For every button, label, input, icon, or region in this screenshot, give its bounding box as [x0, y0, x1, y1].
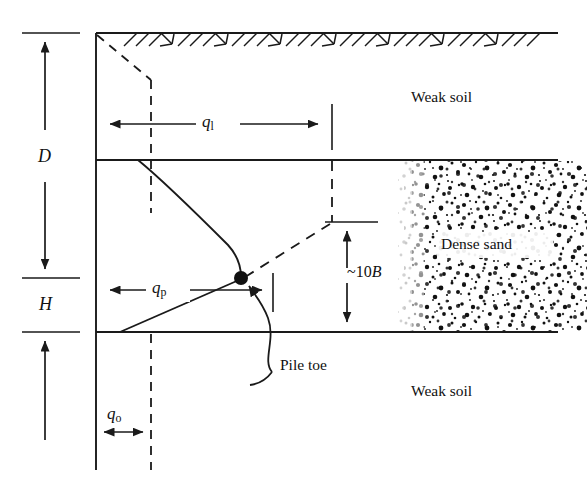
dense-sand-label: Dense sand: [441, 236, 512, 252]
depth-D-label: D: [38, 147, 51, 165]
ground-hatch-icon: [124, 33, 540, 46]
q-point-dimension: [110, 273, 273, 312]
pile-toe-marker: [234, 271, 248, 285]
q-mobilised-curve: [120, 160, 241, 332]
weak-soil-upper-label: Weak soil: [411, 89, 472, 105]
q-point-label: qp: [152, 279, 166, 299]
depth-D-dimension: [22, 33, 80, 278]
thickness-H-label: H: [39, 295, 52, 313]
q-overburden-label: qo: [107, 405, 121, 425]
thickness-H-dimension: [22, 332, 80, 440]
q-limit-transition-dashed: [245, 161, 332, 277]
figure-canvas: D H ql qp qo ~10B Pile toe Weak soil Den…: [0, 0, 587, 482]
pile-toe-leader: [249, 286, 272, 385]
ten-b-label: ~10B: [347, 264, 381, 280]
q-limit-label: ql: [202, 113, 214, 133]
weak-soil-lower-label: Weak soil: [411, 383, 472, 399]
pile-toe-label: Pile toe: [280, 357, 327, 373]
